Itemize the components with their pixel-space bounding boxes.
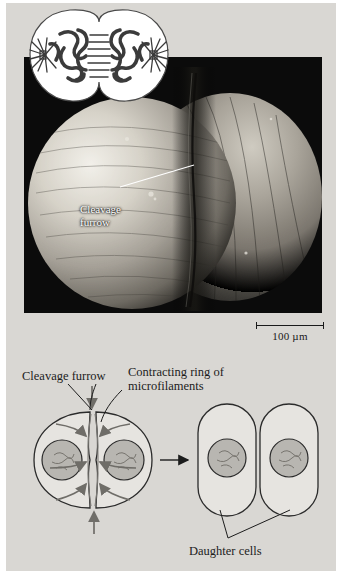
- label-daughter-cells: Daughter cells: [189, 544, 262, 558]
- scale-bar: 100 µm: [252, 322, 328, 342]
- cytokinesis-schematic: Cleavage furrow Contracting ring of micr…: [6, 352, 336, 567]
- midbody-fibers-icon: [88, 35, 110, 77]
- cytokinesis-figure: Cleavage furrow: [0, 0, 342, 585]
- label-contracting-ring-line2: microfilaments: [128, 379, 204, 393]
- stage-dividing-cell: [34, 386, 152, 534]
- label-cleavage-furrow: Cleavage furrow: [22, 369, 106, 383]
- scale-bar-label: 100 µm: [252, 330, 328, 342]
- scale-bar-rule: [256, 322, 324, 329]
- label-contracting-ring-line1: Contracting ring of: [128, 365, 225, 379]
- cytokinesis-schematic-svg: Cleavage furrow Contracting ring of micr…: [6, 352, 336, 567]
- nucleus: [270, 439, 308, 477]
- nucleus: [104, 440, 144, 480]
- nucleus: [42, 440, 82, 480]
- telophase-inset-diagram: [26, 8, 172, 104]
- stage-daughter-cells: [198, 404, 318, 516]
- nucleus: [208, 439, 246, 477]
